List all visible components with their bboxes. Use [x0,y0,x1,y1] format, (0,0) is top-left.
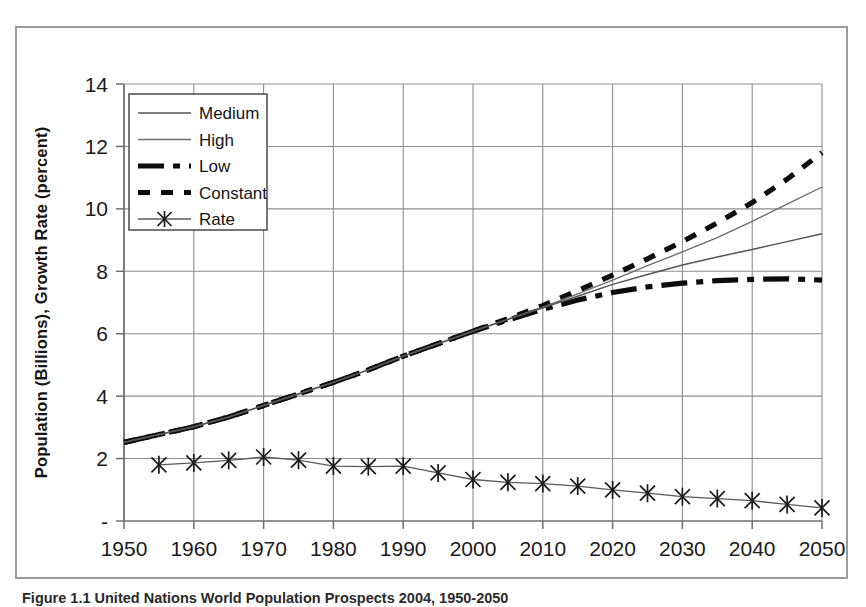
y-tick-label-14: 14 [85,73,109,96]
series-line-rate [159,457,822,508]
figure-frame: -246810121419501960197019801990200020102… [15,26,848,579]
x-tick-label-2030: 2030 [659,537,706,560]
figure-caption: Figure 1.1 United Nations World Populati… [22,590,842,607]
y-tick-label--: - [101,510,108,533]
legend-label-high: High [199,131,234,150]
y-tick-label-4: 4 [96,385,108,408]
legend-label-medium: Medium [199,104,259,123]
x-tick-label-1980: 1980 [310,537,357,560]
y-tick-label-2: 2 [96,447,108,470]
y-tick-label-8: 8 [96,260,108,283]
x-tick-label-1970: 1970 [240,537,287,560]
y-axis-title: Population (Billions), Growth Rate (perc… [32,127,50,479]
chart-legend: MediumHighLowConstantRate [129,94,267,230]
y-tick-label-6: 6 [96,322,108,345]
x-tick-label-1950: 1950 [101,537,148,560]
legend-label-constant: Constant [199,184,267,203]
legend-label-low: Low [199,157,231,176]
y-tick-label-12: 12 [85,135,108,158]
legend-label-rate: Rate [199,210,235,229]
x-tick-label-1960: 1960 [170,537,217,560]
chart-canvas: -246810121419501960197019801990200020102… [17,28,850,581]
x-tick-label-2040: 2040 [729,537,776,560]
x-tick-label-2050: 2050 [799,537,846,560]
x-tick-label-2000: 2000 [450,537,497,560]
rate-marker-1995 [431,464,446,482]
x-tick-label-1990: 1990 [380,537,427,560]
x-tick-label-2020: 2020 [589,537,636,560]
x-tick-label-2010: 2010 [519,537,566,560]
y-tick-label-10: 10 [85,197,108,220]
population-projection-chart: -246810121419501960197019801990200020102… [17,28,850,581]
